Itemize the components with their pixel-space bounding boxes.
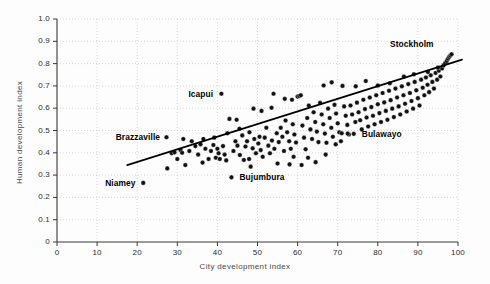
y-tick-label: 0	[10, 237, 50, 246]
x-tick-label: 30	[157, 248, 197, 257]
point-annotation: Stockholm	[390, 39, 434, 49]
x-tick-label: 70	[318, 248, 358, 257]
x-tick-label: 50	[238, 248, 278, 257]
y-tick-label: 0.9	[10, 36, 50, 45]
x-tick-label: 100	[438, 248, 478, 257]
point-annotation: Bulawayo	[362, 129, 402, 139]
x-tick-label: 90	[398, 248, 438, 257]
y-tick-label: 1.0	[10, 14, 50, 23]
x-axis-title: City development index	[0, 262, 490, 271]
x-tick-label: 40	[197, 248, 237, 257]
x-tick-label: 20	[117, 248, 157, 257]
point-annotation: Niamey	[105, 178, 135, 188]
vertical-gridlines	[97, 19, 458, 242]
x-tick-label: 60	[278, 248, 318, 257]
x-tick-label: 10	[77, 248, 117, 257]
point-annotation: Icapui	[188, 89, 213, 99]
y-tick-label: 0.1	[10, 215, 50, 224]
point-annotation: Bujumbura	[239, 172, 284, 182]
point-annotation: Brazzaville	[116, 132, 160, 142]
scatter-chart-figure: 010203040506070809010000.10.20.30.40.50.…	[0, 0, 490, 284]
y-axis-title: Human development index	[15, 58, 24, 208]
x-tick-label: 0	[37, 248, 77, 257]
x-tick-label: 80	[358, 248, 398, 257]
